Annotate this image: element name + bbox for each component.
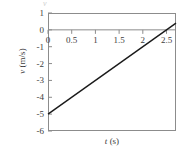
x-tick-label: 0.5 bbox=[60, 36, 84, 45]
x-tick-marks bbox=[48, 30, 167, 34]
y-axis-label-symbol: v bbox=[17, 70, 27, 74]
x-tick-label: 2 bbox=[131, 36, 155, 45]
y-tick-label: 1 bbox=[22, 9, 44, 18]
x-axis-label: t (s) bbox=[48, 136, 176, 146]
y-axis-label-unit: (m/s) bbox=[17, 48, 27, 67]
x-axis-label-unit: (s) bbox=[110, 136, 120, 146]
x-tick-label: 2.5 bbox=[155, 36, 179, 45]
y-tick-label: -4 bbox=[22, 93, 44, 102]
x-tick-label: 1 bbox=[83, 36, 107, 45]
y-axis-label: v (m/s) bbox=[17, 31, 27, 91]
x-axis-label-symbol: t bbox=[105, 136, 108, 146]
x-tick-label: 1.5 bbox=[107, 36, 131, 45]
y-tick-label: -5 bbox=[22, 110, 44, 119]
velocity-time-chart: v 1 0 -1 -2 -3 -4 -5 -6 0 0.5 1 1.5 2 2.… bbox=[0, 0, 188, 152]
y-tick-label: -6 bbox=[22, 127, 44, 136]
x-tick-label: 0 bbox=[36, 36, 60, 45]
